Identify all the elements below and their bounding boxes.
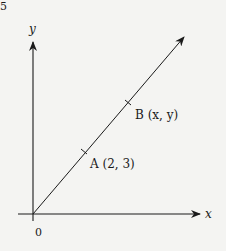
point-b-label: B (x, y) [135,108,178,122]
point-a-label: A (2, 3) [89,157,135,171]
ray-line [33,37,184,214]
y-axis-label: y [28,22,36,36]
coordinate-diagram: 5 y x 0 A (2, 3) B (x, y) [0,0,226,251]
origin-label: 0 [35,226,42,239]
corner-number-fragment: 5 [0,0,7,13]
x-axis-label: x [205,207,212,221]
